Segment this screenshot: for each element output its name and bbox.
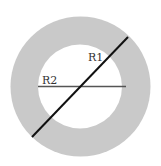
annulus-diagram: R2 R1	[0, 0, 161, 166]
label-inner-radius: R2	[42, 74, 57, 87]
label-outer-radius: R1	[88, 51, 103, 64]
